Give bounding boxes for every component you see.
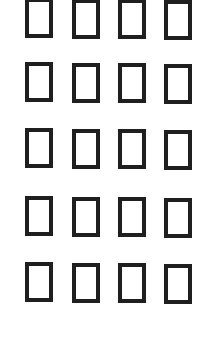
missing-glyph-box-icon (72, 63, 100, 103)
missing-glyph-box-icon (164, 130, 192, 170)
missing-glyph-box-icon (25, 62, 53, 102)
missing-glyph-box-icon (25, 262, 53, 302)
missing-glyph-grid (0, 0, 208, 345)
missing-glyph-box-icon (25, 0, 53, 38)
missing-glyph-box-icon (164, 64, 192, 104)
missing-glyph-box-icon (72, 197, 100, 237)
missing-glyph-box-icon (25, 128, 53, 168)
missing-glyph-box-icon (25, 196, 53, 236)
missing-glyph-box-icon (118, 129, 146, 169)
missing-glyph-box-icon (164, 0, 192, 40)
missing-glyph-box-icon (72, 0, 100, 39)
missing-glyph-box-icon (118, 0, 146, 39)
missing-glyph-box-icon (118, 63, 146, 103)
missing-glyph-box-icon (118, 263, 146, 303)
missing-glyph-box-icon (164, 264, 192, 304)
missing-glyph-box-icon (72, 263, 100, 303)
missing-glyph-box-icon (164, 198, 192, 238)
missing-glyph-box-icon (72, 129, 100, 169)
missing-glyph-box-icon (118, 197, 146, 237)
